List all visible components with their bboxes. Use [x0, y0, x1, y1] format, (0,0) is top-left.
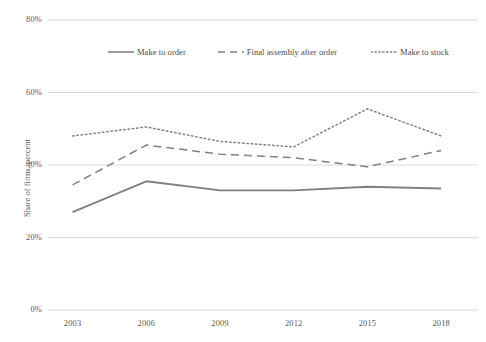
- series-line-make-to-order: [73, 181, 442, 212]
- legend-item-final-assembly-after-order: Final assembly after order: [218, 47, 337, 57]
- gridlines: [48, 20, 478, 310]
- dotted-line-swatch-icon: [371, 47, 397, 57]
- dashed-line-swatch-icon: [218, 47, 244, 57]
- legend-label: Final assembly after order: [247, 47, 337, 57]
- legend-label: Make to stock: [400, 47, 449, 57]
- legend-label: Make to order: [137, 47, 186, 57]
- legend-item-make-to-stock: Make to stock: [371, 47, 449, 57]
- solid-line-swatch-icon: [108, 47, 134, 57]
- series-lines: [73, 109, 442, 212]
- line-chart: Share of firms, percent 80% 60% 40% 20% …: [0, 0, 486, 342]
- series-line-make-to-stock: [73, 109, 442, 147]
- legend-item-make-to-order: Make to order: [108, 47, 186, 57]
- chart-legend: Make to order Final assembly after order…: [108, 44, 448, 60]
